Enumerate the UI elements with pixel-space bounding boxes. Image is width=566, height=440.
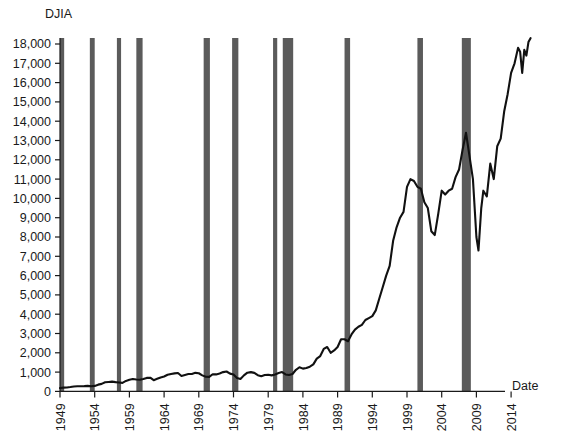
y-tick-label: 5,000 bbox=[20, 288, 51, 302]
y-tick-label: 10,000 bbox=[13, 192, 51, 206]
y-tick-label: 3,000 bbox=[20, 327, 51, 341]
recession-band bbox=[283, 38, 293, 391]
y-tick-label: 8,000 bbox=[20, 230, 51, 244]
y-axis-title: DJIA bbox=[45, 7, 73, 21]
x-tick-label: 1984 bbox=[297, 403, 311, 431]
recession-band bbox=[232, 38, 238, 391]
recession-band bbox=[462, 38, 471, 391]
y-tick-label: 11,000 bbox=[14, 173, 51, 187]
recession-band bbox=[90, 38, 95, 391]
recession-band bbox=[136, 38, 142, 391]
y-tick-label: 15,000 bbox=[13, 95, 51, 109]
y-tick-label: 6,000 bbox=[20, 269, 51, 283]
y-tick-label: 17,000 bbox=[13, 57, 51, 71]
x-tick-label: 1964 bbox=[158, 403, 172, 431]
x-tick-label: 1969 bbox=[192, 403, 206, 431]
y-tick-label: 14,000 bbox=[13, 115, 51, 129]
x-tick-label: 1979 bbox=[262, 403, 276, 431]
x-tick-label: 1949 bbox=[54, 403, 68, 431]
y-tick-label: 1,000 bbox=[20, 366, 51, 380]
djia-series-line bbox=[60, 38, 531, 388]
y-tick-label: 18,000 bbox=[13, 37, 51, 51]
x-tick-label: 2004 bbox=[435, 403, 449, 431]
chart-canvas: 18,00017,00016,00015,00014,00013,00012,0… bbox=[0, 0, 566, 440]
x-tick-label: 2009 bbox=[470, 403, 484, 431]
x-tick-label: 1954 bbox=[88, 403, 102, 431]
y-tick-label: 9,000 bbox=[20, 211, 51, 225]
x-tick-label: 1989 bbox=[331, 403, 345, 431]
y-tick-label: 16,000 bbox=[13, 76, 51, 90]
y-tick-label: 7,000 bbox=[20, 250, 51, 264]
y-tick-label: 2,000 bbox=[20, 346, 51, 360]
y-tick-label: 12,000 bbox=[13, 153, 51, 167]
recession-band bbox=[60, 38, 64, 391]
recession-bands bbox=[60, 38, 471, 391]
y-axis: 18,00017,00016,00015,00014,00013,00012,0… bbox=[13, 37, 60, 398]
recession-band bbox=[417, 38, 423, 391]
x-tick-label: 1999 bbox=[401, 403, 415, 431]
x-tick-label: 2014 bbox=[505, 403, 519, 431]
recession-band bbox=[204, 38, 210, 391]
y-tick-label: 4,000 bbox=[20, 308, 51, 322]
recession-band bbox=[273, 38, 277, 391]
series-group bbox=[60, 38, 531, 388]
y-tick-label: 0 bbox=[44, 385, 51, 399]
x-tick-label: 1974 bbox=[227, 403, 241, 431]
y-tick-label: 13,000 bbox=[13, 134, 51, 148]
x-axis: 1949195419591964196919741979198419891994… bbox=[54, 391, 519, 431]
djia-chart: 18,00017,00016,00015,00014,00013,00012,0… bbox=[0, 0, 566, 440]
x-axis-title: Date bbox=[512, 379, 538, 393]
recession-band bbox=[117, 38, 121, 391]
x-tick-label: 1959 bbox=[123, 403, 137, 431]
x-tick-label: 1994 bbox=[366, 403, 380, 431]
